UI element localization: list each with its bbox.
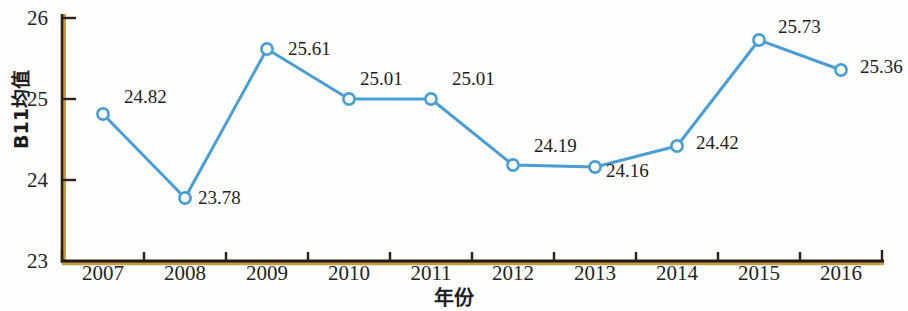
data-label-2014: 24.42 [696,132,739,154]
x-tick-marks [62,250,882,261]
chart-figure: B11均值 26 25 24 23 [0,0,908,311]
data-point-2011 [425,93,436,104]
data-point-2016 [835,64,846,75]
data-point-2012 [507,159,518,170]
data-point-2008 [179,192,190,203]
data-label-2012: 24.19 [534,135,577,157]
data-markers [97,34,846,203]
x-axis-title: 年份 [0,282,908,311]
data-label-2007: 24.82 [124,86,167,108]
data-label-2009: 25.61 [288,38,331,60]
data-label-2016: 25.36 [860,56,903,78]
data-point-2013 [589,161,600,172]
data-line [103,40,841,198]
data-point-2014 [671,140,682,151]
axis-lines [62,14,884,263]
data-point-2007 [97,108,108,119]
data-label-2008: 23.78 [198,187,241,209]
data-point-2009 [261,43,272,54]
data-point-2010 [343,93,354,104]
data-point-2015 [753,34,764,45]
data-label-2011: 25.01 [452,68,495,90]
data-label-2015: 25.73 [778,16,821,38]
data-label-2013: 24.16 [606,160,649,182]
data-label-2010: 25.01 [360,68,403,90]
